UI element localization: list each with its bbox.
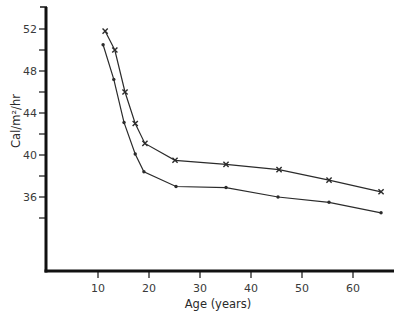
x-tick-label: 60	[346, 282, 360, 295]
x-marker-icon	[103, 29, 108, 34]
y-tick-label: 36	[23, 191, 37, 204]
dot-marker-icon	[142, 170, 145, 173]
y-tick-label: 52	[23, 23, 37, 36]
dot-marker-icon	[101, 43, 104, 46]
series-layer	[101, 29, 383, 215]
series-line	[103, 45, 381, 213]
x-tick-label: 40	[244, 282, 258, 295]
dot-marker-icon	[224, 186, 227, 189]
series-line	[105, 31, 381, 192]
dot-marker-icon	[112, 78, 115, 81]
x-tick-label: 10	[91, 282, 105, 295]
dot-marker-icon	[379, 211, 382, 214]
dot-marker-icon	[276, 195, 279, 198]
x-tick-label: 30	[193, 282, 207, 295]
dot-marker-icon	[122, 121, 125, 124]
dot-marker-icon	[174, 185, 177, 188]
dot-marker-icon	[134, 152, 137, 155]
y-tick-label: 44	[23, 107, 37, 120]
x-tick-label: 20	[142, 282, 156, 295]
axes: 3640444852102030405060	[23, 7, 394, 295]
x-marker-icon	[142, 141, 147, 146]
y-tick-label: 40	[23, 149, 37, 162]
x-tick-label: 50	[295, 282, 309, 295]
series-upper	[103, 29, 384, 195]
y-tick-label: 48	[23, 65, 37, 78]
x-axis-label: Age (years)	[185, 297, 252, 311]
y-axis-label: Cal/m²/hr	[9, 94, 23, 148]
dot-marker-icon	[327, 201, 330, 204]
chart: 3640444852102030405060 Age (years) Cal/m…	[0, 0, 401, 316]
series-lower	[101, 43, 382, 214]
